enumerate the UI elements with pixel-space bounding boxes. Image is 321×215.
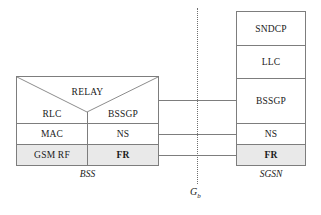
bss-fr-cell: FR	[88, 145, 158, 165]
sgsn-sndcp-cell: SNDCP	[237, 12, 305, 45]
sgsn-caption: SGSN	[236, 169, 306, 179]
sgsn-fr-cell: FR	[237, 145, 305, 165]
diagram-canvas: RELAY GSM RF FR RLC BSSGP MAC NS BSS SND…	[0, 0, 321, 215]
sgsn-protocol-stack: SNDCP LLC BSSGP NS FR	[236, 11, 306, 166]
bss-protocol-stack: RELAY GSM RF FR RLC BSSGP MAC NS	[16, 76, 159, 166]
gb-label-subscript: b	[197, 192, 201, 200]
sgsn-llc-cell: LLC	[237, 46, 305, 78]
sgsn-ns-cell: NS	[237, 124, 305, 144]
bss-gsmrf-cell: GSM RF	[17, 145, 87, 165]
gb-interface-line	[197, 8, 198, 184]
sgsn-bssgp-cell: BSSGP	[237, 79, 305, 123]
bss-relay-label: RELAY	[17, 83, 158, 101]
bss-mac-cell: MAC	[17, 124, 87, 144]
bss-caption: BSS	[16, 169, 159, 179]
bss-ns-cell: NS	[88, 124, 158, 144]
bss-rlc-cell: RLC	[17, 105, 87, 123]
gb-interface-label: Gb	[190, 186, 201, 200]
bss-bssgp-cell: BSSGP	[88, 105, 158, 123]
